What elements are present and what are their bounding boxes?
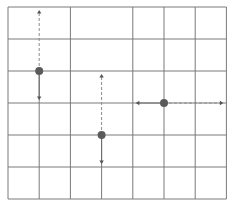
arrowhead-left-icon xyxy=(136,101,140,105)
point-c xyxy=(160,99,168,107)
arrowhead-right-icon xyxy=(220,101,224,105)
arrowhead-up-icon xyxy=(37,10,41,14)
arrowhead-down-icon xyxy=(99,161,103,165)
point-a xyxy=(35,67,43,75)
grid-diagram xyxy=(0,0,234,206)
arrowhead-up-icon xyxy=(99,74,103,78)
grid xyxy=(8,7,226,199)
point-b xyxy=(98,131,106,139)
arrowhead-down-icon xyxy=(37,97,41,101)
